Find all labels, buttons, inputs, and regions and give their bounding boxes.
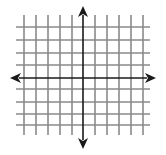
coordinate-plane	[0, 0, 166, 155]
